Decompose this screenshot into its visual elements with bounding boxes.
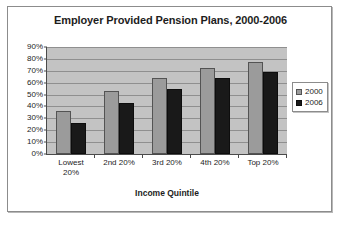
y-axis-tick-label: 80% <box>27 55 43 63</box>
bar-2006-4 <box>215 78 230 154</box>
bar-2006-2 <box>119 103 134 154</box>
bar-group <box>239 47 287 154</box>
category-label-5: Top 20% <box>239 158 287 168</box>
category-label-line: Top 20% <box>239 158 287 168</box>
bar-2006-3 <box>167 89 182 154</box>
category-label-4: 4th 20% <box>191 158 239 168</box>
bar-group <box>95 47 143 154</box>
x-axis-title: Income Quintile <box>47 188 287 198</box>
legend-swatch-icon <box>296 100 302 106</box>
category-label-line: 2nd 20% <box>95 158 143 168</box>
bar-2000-1 <box>56 111 71 154</box>
category-label-1: Lowest20% <box>47 158 95 178</box>
legend-item-2006: 2006 <box>296 97 323 108</box>
chart-title: Employer Provided Pension Plans, 2000-20… <box>8 14 333 26</box>
category-label-line: 20% <box>47 168 95 178</box>
bar-2000-3 <box>152 78 167 154</box>
bar-2006-1 <box>71 123 86 154</box>
bar-2000-5 <box>248 62 263 154</box>
category-label-3: 3rd 20% <box>143 158 191 168</box>
legend-item-2000: 2000 <box>296 86 323 97</box>
y-axis-tick-label: 60% <box>27 79 43 87</box>
plot-area: 0%10%20%30%40%50%60%70%80%90% <box>46 47 287 155</box>
category-axis-labels: Lowest20%2nd 20%3rd 20%4th 20%Top 20% <box>47 158 287 188</box>
y-axis-tick-label: 50% <box>27 91 43 99</box>
bar-group <box>143 47 191 154</box>
bar-2006-5 <box>263 72 278 154</box>
category-label-line: Lowest <box>47 158 95 168</box>
y-axis-tick-label: 70% <box>27 67 43 75</box>
y-axis-tick-label: 90% <box>27 43 43 51</box>
category-label-line: 3rd 20% <box>143 158 191 168</box>
category-label-line: 4th 20% <box>191 158 239 168</box>
y-axis-tick-label: 20% <box>27 126 43 134</box>
bar-group <box>47 47 95 154</box>
legend-label: 2006 <box>305 99 323 107</box>
y-axis-tick-label: 40% <box>27 102 43 110</box>
chart-legend: 20002006 <box>292 82 328 112</box>
legend-label: 2000 <box>305 88 323 96</box>
legend-swatch-icon <box>296 89 302 95</box>
chart-frame: Employer Provided Pension Plans, 2000-20… <box>7 6 332 212</box>
y-axis-tick-label: 0% <box>31 150 43 158</box>
bar-2000-4 <box>200 68 215 154</box>
y-axis-tick-label: 10% <box>27 138 43 146</box>
bar-group <box>191 47 239 154</box>
bars-layer <box>47 47 287 154</box>
bar-2000-2 <box>104 91 119 154</box>
y-axis-tick-label: 30% <box>27 114 43 122</box>
category-label-2: 2nd 20% <box>95 158 143 168</box>
